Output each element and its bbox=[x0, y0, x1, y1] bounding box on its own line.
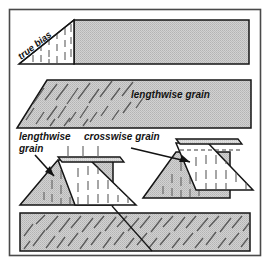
trapezoid-b-selvage bbox=[58, 157, 124, 162]
fabric-grain-diagram: true bias bbox=[0, 0, 270, 265]
lengthwise-parallelogram bbox=[17, 80, 251, 128]
diagram-canvas: true bias bbox=[0, 0, 270, 265]
panel-bias-rectangle bbox=[20, 206, 250, 251]
label-lengthwise-grain-line2: grain bbox=[18, 143, 43, 154]
panel-lengthwise-grain: lengthwise grain bbox=[17, 80, 251, 128]
label-lengthwise-grain: lengthwise grain bbox=[131, 89, 210, 100]
label-lengthwise-grain-line1: lengthwise bbox=[19, 131, 71, 142]
trapezoid-d-selvage bbox=[176, 139, 242, 144]
true-bias-rectangle bbox=[74, 20, 249, 64]
label-crosswise-grain: crosswise grain bbox=[84, 131, 160, 142]
